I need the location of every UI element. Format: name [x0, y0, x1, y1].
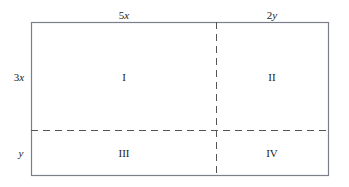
region-II: II — [268, 71, 275, 83]
var: x — [124, 9, 129, 21]
var: y — [19, 147, 24, 159]
region-IV: IV — [266, 147, 278, 159]
area-diagram — [0, 0, 349, 187]
top-label-5x: 5x — [119, 9, 129, 21]
side-label-y: y — [19, 147, 24, 159]
outer-rectangle — [32, 23, 329, 176]
region-I: I — [122, 71, 126, 83]
region-III: III — [119, 147, 130, 159]
var: x — [19, 71, 24, 83]
var: y — [272, 9, 277, 21]
top-label-2y: 2y — [267, 9, 277, 21]
side-label-3x: 3x — [14, 71, 24, 83]
